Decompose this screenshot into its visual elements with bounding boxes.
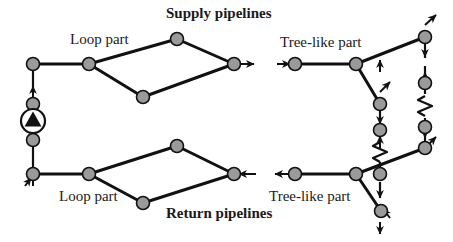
label-loop-part-bottom: Loop part bbox=[59, 189, 118, 204]
pipe-supply-loop-lower-left bbox=[89, 64, 143, 97]
pipe-supply-loop-upper-right bbox=[177, 39, 234, 64]
node-return-loop-top bbox=[171, 140, 184, 153]
label-tree-like-part-bottom: Tree-like part bbox=[269, 189, 351, 204]
node-mid-riser-upper bbox=[374, 124, 387, 137]
pipe-return-tree-branch-up bbox=[356, 148, 425, 174]
node-return-branch-upper bbox=[419, 142, 432, 155]
node-supply-tree-junction bbox=[350, 58, 363, 71]
label-loop-part-top: Loop part bbox=[70, 32, 129, 47]
node-supply-source bbox=[27, 58, 40, 71]
label-return-pipelines: Return pipelines bbox=[166, 206, 272, 221]
pipe-supply-loop-lower-right bbox=[143, 64, 234, 97]
circulation-pump-icon bbox=[21, 109, 45, 133]
heat-exchanger-zigzag-icon-right bbox=[418, 96, 432, 116]
arrow-branch-supply-a-out bbox=[425, 15, 436, 25]
pipe-supply-tree-branch-up bbox=[356, 37, 425, 64]
node-right-riser-lower bbox=[419, 121, 432, 134]
node-return-sink bbox=[27, 168, 40, 181]
pipe-return-loop-upper-right bbox=[177, 146, 234, 174]
node-return-branch-lower bbox=[375, 205, 388, 218]
node-return-loop-right bbox=[228, 168, 241, 181]
node-supply-loop-top bbox=[171, 33, 184, 46]
node-return-loop-left bbox=[83, 168, 96, 181]
arrow-mid-supply-out bbox=[380, 82, 390, 92]
pipe-return-loop-lower-right bbox=[143, 174, 234, 203]
node-return-tree-junction bbox=[350, 168, 363, 181]
node-supply-branch-upper bbox=[419, 31, 432, 44]
supply-loop-pipes bbox=[33, 39, 234, 97]
diagram-canvas: Supply pipelines Loop part Tree-like par… bbox=[0, 0, 453, 242]
node-supply-tree-inlet bbox=[289, 58, 302, 71]
label-tree-like-part-top: Tree-like part bbox=[280, 35, 362, 50]
pipe-return-loop-upper-left bbox=[89, 146, 177, 174]
node-return-loop-bottom bbox=[137, 197, 150, 210]
node-right-riser-upper bbox=[419, 77, 432, 90]
node-mid-riser-lower bbox=[374, 168, 387, 181]
node-supply-loop-bottom bbox=[137, 91, 150, 104]
label-supply-pipelines: Supply pipelines bbox=[166, 6, 271, 21]
node-pump-outlet bbox=[27, 134, 40, 147]
node-supply-loop-left bbox=[83, 58, 96, 71]
node-supply-loop-right bbox=[228, 58, 241, 71]
node-supply-branch-lower bbox=[374, 98, 387, 111]
node-return-tree-outlet bbox=[289, 168, 302, 181]
